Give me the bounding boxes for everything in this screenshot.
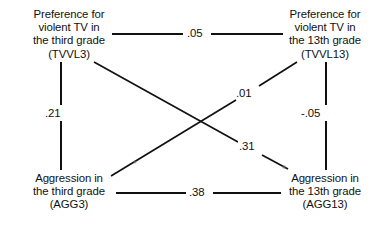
node-agg3-line-3: (AGG3) bbox=[10, 198, 128, 211]
node-agg3-line-1: Aggression in bbox=[10, 172, 128, 185]
cross-lagged-panel-diagram: Preference for violent TV in the third g… bbox=[0, 0, 391, 226]
diagonal-marker-right bbox=[282, 165, 285, 168]
node-agg13-line-2: the 13th grade bbox=[266, 185, 384, 198]
node-agg13: Aggression in the 13th grade (AGG13) bbox=[266, 172, 384, 212]
node-tvvl13-line-2: violent TV in bbox=[266, 21, 384, 34]
diagonal-marker-left bbox=[134, 161, 137, 164]
node-agg3-line-2: the third grade bbox=[10, 185, 128, 198]
coefficient-tvvl3-tvvl13: .05 bbox=[186, 27, 204, 39]
coefficient-agg3-agg13: .38 bbox=[188, 186, 206, 198]
node-tvvl13-line-4: (TVVL13) bbox=[266, 48, 384, 61]
node-agg3: Aggression in the third grade (AGG3) bbox=[10, 172, 128, 212]
node-tvvl3-line-2: violent TV in bbox=[10, 21, 128, 34]
node-tvvl13-line-3: the 13th grade bbox=[266, 34, 384, 47]
node-tvvl13-line-1: Preference for bbox=[266, 8, 384, 21]
node-tvvl3: Preference for violent TV in the third g… bbox=[10, 8, 128, 61]
coefficient-tvvl3-agg3: .21 bbox=[44, 107, 62, 119]
node-tvvl3-line-3: the third grade bbox=[10, 34, 128, 47]
node-agg13-line-1: Aggression in bbox=[266, 172, 384, 185]
coefficient-tvvl13-agg13: -.05 bbox=[300, 107, 321, 119]
edge-agg3-tvvl13-b bbox=[259, 62, 297, 86]
node-tvvl3-line-4: (TVVL3) bbox=[10, 48, 128, 61]
coefficient-agg3-tvvl13: .01 bbox=[235, 87, 253, 99]
node-tvvl3-line-1: Preference for bbox=[10, 8, 128, 21]
edge-agg3-tvvl13 bbox=[111, 100, 236, 176]
node-agg13-line-3: (AGG13) bbox=[266, 198, 384, 211]
edge-tvvl3-agg13 bbox=[94, 62, 238, 142]
node-tvvl13: Preference for violent TV in the 13th gr… bbox=[266, 8, 384, 61]
coefficient-tvvl3-agg13: .31 bbox=[238, 140, 256, 152]
